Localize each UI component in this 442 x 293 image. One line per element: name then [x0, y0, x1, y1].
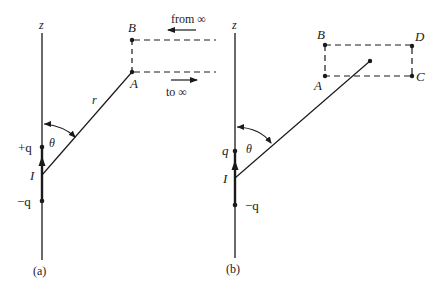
- plus-charge-dot: [233, 149, 238, 154]
- minus-q-label: −q: [245, 198, 259, 213]
- current-arrow-icon: [232, 160, 239, 170]
- theta-label: θ: [49, 136, 55, 150]
- minus-charge-dot: [233, 203, 238, 208]
- from-infinity-label: from ∞: [171, 12, 206, 26]
- angle-arc-start-arrow-icon: [44, 121, 51, 127]
- minus-charge-dot: [40, 199, 45, 204]
- panel-b: z B D A C θ q I −q (b): [222, 18, 425, 276]
- point-c-label: C: [416, 69, 425, 84]
- dipole-figure: z B A from ∞ to ∞ r θ +q I −q (a) z B: [0, 0, 442, 293]
- current-arrow-icon: [39, 156, 46, 166]
- radius-label: r: [92, 93, 97, 107]
- plus-q-label: +q: [18, 140, 32, 155]
- current-label: I: [29, 168, 35, 183]
- point-a-label: A: [313, 78, 322, 93]
- angle-arc: [237, 127, 271, 143]
- current-label: I: [222, 171, 228, 186]
- point-b-label: B: [317, 27, 325, 42]
- point-a-dot: [323, 74, 327, 78]
- to-infinity-label: to ∞: [166, 85, 187, 99]
- z-axis-label: z: [38, 18, 44, 32]
- theta-label: θ: [246, 142, 252, 156]
- point-d-dot: [410, 44, 414, 48]
- point-a-label: A: [129, 76, 138, 91]
- minus-q-label: −q: [17, 194, 31, 209]
- field-point-dot: [368, 59, 372, 63]
- z-axis-label: z: [231, 18, 237, 32]
- caption-b: (b): [226, 262, 240, 276]
- plus-q-label: q: [222, 143, 229, 158]
- radius-line: [42, 72, 132, 175]
- angle-arc-start-arrow-icon: [237, 124, 244, 130]
- panel-a: z B A from ∞ to ∞ r θ +q I −q (a): [17, 12, 216, 278]
- point-b-label: B: [128, 20, 136, 35]
- point-d-label: D: [414, 29, 425, 44]
- radius-line: [235, 61, 370, 178]
- caption-a: (a): [33, 264, 46, 278]
- point-b-dot: [323, 43, 327, 47]
- point-c-dot: [410, 74, 414, 78]
- plus-charge-dot: [40, 145, 45, 150]
